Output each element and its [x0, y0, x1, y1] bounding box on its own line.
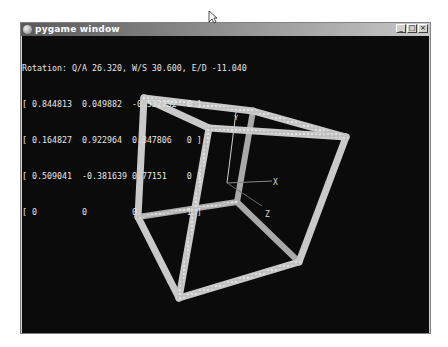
close-button[interactable]: × — [418, 24, 428, 33]
title-bar[interactable]: pygame window _ □ × — [21, 23, 430, 36]
rotation-readout: Rotation: Q/A 26.320, W/S 30.600, E/D -1… — [22, 62, 247, 74]
matrix-row: [ 0.844813 0.049882 -0.532732 0 ] — [22, 98, 247, 110]
mouse-cursor-icon — [208, 10, 218, 24]
matrix-row: [ 0.164827 0.922964 0.347806 0 ] — [22, 134, 247, 146]
minimize-button[interactable]: _ — [396, 24, 406, 33]
pygame-window: pygame window _ □ × Rotation: Q/A 26.320… — [20, 22, 431, 334]
matrix-row: [ 0 0 0 1 ] — [22, 206, 247, 218]
window-title: pygame window — [35, 23, 120, 36]
maximize-button[interactable]: □ — [407, 24, 417, 33]
axis-label-z: Z — [265, 210, 270, 219]
axis-label-x: X — [273, 178, 278, 187]
matrix-row: [ 0.509041 -0.381639 0.77151 0 ] — [22, 170, 247, 182]
hud-overlay: Rotation: Q/A 26.320, W/S 30.600, E/D -1… — [22, 38, 247, 242]
render-canvas[interactable]: Rotation: Q/A 26.320, W/S 30.600, E/D -1… — [22, 36, 429, 333]
window-controls: _ □ × — [395, 24, 428, 33]
pygame-icon — [23, 25, 32, 34]
